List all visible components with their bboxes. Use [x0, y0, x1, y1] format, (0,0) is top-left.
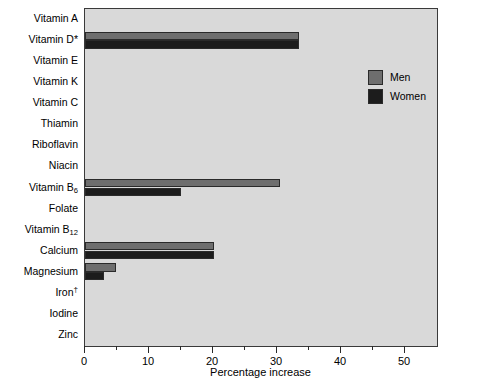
chart-legend: Men Women [368, 70, 448, 108]
x-axis-tick [244, 346, 245, 350]
legend-label-women: Women [390, 90, 426, 102]
x-axis-tick [404, 346, 405, 353]
bar-men [85, 179, 280, 187]
bar-women [85, 251, 214, 259]
y-axis-label: Vitamin A [0, 13, 78, 24]
legend-swatch-men [368, 70, 383, 85]
x-axis-tick [372, 346, 373, 350]
x-axis-title: Percentage increase [84, 366, 437, 378]
bar-women [85, 40, 299, 48]
bar-row [85, 135, 437, 156]
x-axis-tick [340, 346, 341, 353]
y-axis-label: Iodine [0, 308, 78, 319]
bar-row [85, 114, 437, 135]
y-axis-label: Vitamin E [0, 55, 78, 66]
bar-row [85, 30, 437, 51]
y-axis-label: Vitamin D* [0, 34, 78, 45]
y-axis-label: Riboflavin [0, 139, 78, 150]
bar-men [85, 32, 299, 40]
bar-rows [85, 9, 437, 346]
bar-row [85, 325, 437, 346]
y-axis-label: Iron† [0, 287, 78, 299]
legend-entry-women: Women [368, 89, 448, 103]
legend-label-men: Men [390, 71, 410, 83]
y-axis-label: Thiamin [0, 118, 78, 129]
legend-swatch-women [368, 89, 383, 104]
x-axis-tick [308, 346, 309, 350]
y-axis-label: Calcium [0, 245, 78, 256]
bar-row [85, 262, 437, 283]
y-axis-label: Zinc [0, 329, 78, 340]
x-axis-tick [212, 346, 213, 353]
y-axis-label: Vitamin C [0, 97, 78, 108]
legend-entry-men: Men [368, 70, 448, 84]
x-axis-tick [148, 346, 149, 353]
bar-row [85, 199, 437, 220]
bar-men [85, 242, 214, 250]
bar-row [85, 156, 437, 177]
x-axis-tick [276, 346, 277, 353]
y-axis-label: Magnesium [0, 266, 78, 277]
x-axis-tick [180, 346, 181, 350]
bar-women [85, 272, 104, 280]
bar-men [85, 263, 116, 271]
y-axis-labels: Vitamin AVitamin D*Vitamin EVitamin KVit… [0, 8, 78, 345]
bar-row [85, 9, 437, 30]
y-axis-label: Vitamin B12 [0, 224, 78, 236]
bar-chart: Vitamin AVitamin D*Vitamin EVitamin KVit… [0, 0, 481, 385]
bar-row [85, 283, 437, 304]
x-axis-tick [116, 346, 117, 350]
x-axis-tick [84, 346, 85, 353]
bar-row [85, 241, 437, 262]
y-axis-label: Vitamin B6 [0, 182, 78, 194]
y-axis-label: Niacin [0, 160, 78, 171]
y-axis-label: Vitamin K [0, 76, 78, 87]
bar-row [85, 220, 437, 241]
bar-row [85, 304, 437, 325]
plot-area [84, 8, 438, 347]
bar-women [85, 188, 181, 196]
y-axis-label: Folate [0, 203, 78, 214]
bar-row [85, 178, 437, 199]
